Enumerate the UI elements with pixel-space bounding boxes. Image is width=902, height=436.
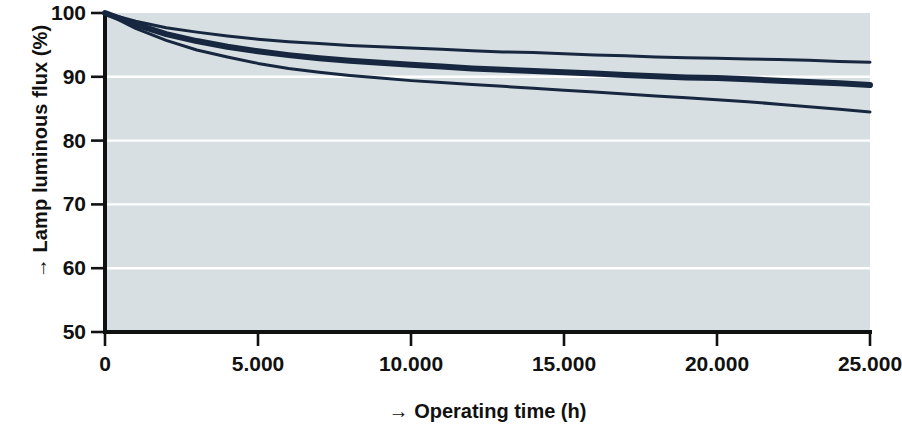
x-tick-label-15000: 15.000 [532, 352, 596, 376]
x-tick-label-5000: 5.000 [232, 352, 285, 376]
x-tick-label-20000: 20.000 [685, 352, 749, 376]
plot-texture [105, 13, 870, 332]
x-tick-label-0: 0 [99, 352, 111, 376]
x-axis-title: → Operating time (h) [105, 400, 870, 423]
x-tick-label-10000: 10.000 [379, 352, 443, 376]
x-tick-label-25000: 25.000 [838, 352, 902, 376]
y-axis-title: → Lamp luminous flux (%) [29, 0, 52, 332]
